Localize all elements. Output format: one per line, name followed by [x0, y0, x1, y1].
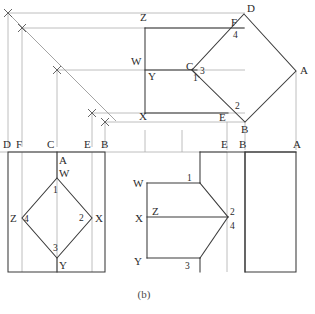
bottom-left-number-labels: 1 4 2 3	[24, 185, 84, 253]
label-E-front: E	[84, 138, 91, 150]
label-3-side: 3	[185, 261, 190, 271]
label-B-front: B	[101, 138, 108, 150]
label-E-top: E	[219, 111, 226, 123]
label-Z-front: Z	[10, 212, 17, 224]
label-W-front: W	[59, 167, 70, 179]
label-Y-side: Y	[134, 255, 142, 267]
label-D-front: D	[3, 138, 11, 150]
miter-line-group	[4, 9, 116, 126]
technical-drawing-figure: D A B C F E 1 2 3 4 Z W Y X D F C E B	[0, 0, 315, 314]
bottom-right-edge-labels: E B A	[221, 138, 301, 150]
figure-caption: (b)	[138, 288, 151, 301]
label-4-top: 4	[233, 30, 238, 40]
label-X-top: X	[139, 110, 147, 122]
projection-lines-group	[0, 13, 296, 272]
label-3-top: 3	[200, 66, 205, 76]
label-A-front: A	[59, 154, 67, 166]
label-4-side: 4	[230, 221, 235, 231]
top-right-number-labels: 1 2 3 4	[193, 30, 240, 111]
label-Y-top: Y	[148, 70, 156, 82]
label-1-side: 1	[187, 173, 192, 183]
label-E-side: E	[221, 138, 228, 150]
label-D-top: D	[247, 2, 255, 14]
label-B-side: B	[239, 138, 246, 150]
label-2-side: 2	[230, 207, 235, 217]
bottom-right-view-geometry	[147, 152, 296, 272]
label-3-front: 3	[53, 243, 58, 253]
label-1-top: 1	[193, 73, 198, 83]
label-B-top: B	[241, 123, 248, 135]
orthographic-projection-drawing: D A B C F E 1 2 3 4 Z W Y X D F C E B	[0, 0, 315, 314]
label-C-front: C	[47, 138, 54, 150]
top-right-view-geometry	[145, 14, 296, 122]
label-X-side: X	[135, 212, 143, 224]
label-A-side: A	[293, 138, 301, 150]
label-Z-side: Z	[152, 205, 159, 217]
label-A-top: A	[300, 64, 308, 76]
label-1-front: 1	[53, 185, 58, 195]
label-W-side: W	[133, 177, 144, 189]
bottom-right-vertex-labels: W Z X Y	[133, 177, 159, 267]
label-F-top: F	[231, 16, 237, 28]
label-Z-top: Z	[140, 11, 147, 23]
label-W-top: W	[131, 55, 142, 67]
label-4-front: 4	[24, 214, 29, 224]
bottom-left-view-geometry	[8, 152, 105, 272]
bottom-right-number-labels: 1 2 4 3	[185, 173, 235, 271]
label-X-front: X	[95, 212, 103, 224]
label-Y-front: Y	[59, 259, 67, 271]
label-2-front: 2	[79, 213, 84, 223]
label-F-front: F	[16, 138, 22, 150]
label-2-top: 2	[235, 101, 240, 111]
label-C-top: C	[186, 60, 193, 72]
